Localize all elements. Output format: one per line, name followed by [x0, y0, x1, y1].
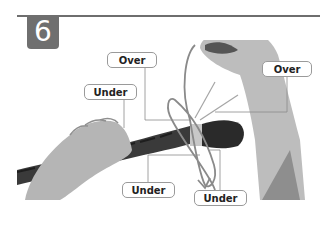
instruction-step-figure: 6 Over Over Under Under Under [0, 0, 326, 225]
under-label-bottom-left: Under [122, 182, 175, 198]
left-hand-icon [25, 121, 132, 200]
callout-line [145, 63, 190, 120]
header-rule [17, 15, 320, 17]
under-label-left: Under [84, 84, 137, 100]
over-label-right: Over [262, 61, 312, 77]
twine-loop-icon [168, 45, 215, 190]
under-label-bottom-right: Under [194, 190, 247, 206]
callout-line [148, 155, 200, 182]
over-label-top: Over [107, 52, 157, 68]
